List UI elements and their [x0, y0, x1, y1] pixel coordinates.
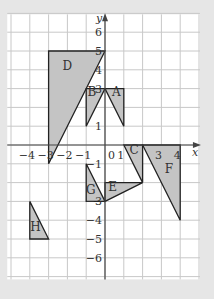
- shape-label-g: G: [86, 183, 96, 197]
- x-tick-label: 3: [155, 149, 162, 162]
- shape-label-f: F: [165, 162, 173, 176]
- y-tick-label: 5: [95, 45, 102, 58]
- shape-label-h: H: [30, 220, 40, 234]
- y-axis-label: y: [95, 12, 103, 25]
- x-axis-label: x: [192, 146, 199, 159]
- shape-label-a: A: [111, 85, 121, 99]
- y-tick-label: −5: [86, 233, 102, 246]
- x-tick-label: −2: [56, 149, 72, 162]
- y-tick-label: −6: [86, 252, 102, 265]
- x-tick-label: −3: [37, 149, 53, 162]
- y-tick-label: 4: [95, 64, 102, 77]
- x-tick-label: 4: [174, 149, 181, 162]
- coordinate-plane: xy−4−3−2−1013465431−1−3−4−5−6 DBACFGEH: [0, 0, 214, 299]
- x-tick-label: −4: [19, 149, 35, 162]
- y-tick-label: 1: [95, 120, 102, 133]
- y-tick-label: −1: [86, 158, 102, 171]
- shape-label-b: B: [87, 85, 96, 99]
- y-tick-label: −3: [86, 195, 102, 208]
- shape-label-d: D: [63, 59, 73, 73]
- x-tick-label: 0: [108, 149, 115, 162]
- x-tick-label: 1: [117, 149, 124, 162]
- y-tick-label: −4: [86, 214, 102, 227]
- shape-label-e: E: [108, 180, 117, 194]
- y-tick-label: 6: [95, 26, 102, 39]
- coordinate-grid-figure: xy−4−3−2−1013465431−1−3−4−5−6 DBACFGEH: [0, 0, 214, 299]
- shape-label-c: C: [130, 143, 139, 157]
